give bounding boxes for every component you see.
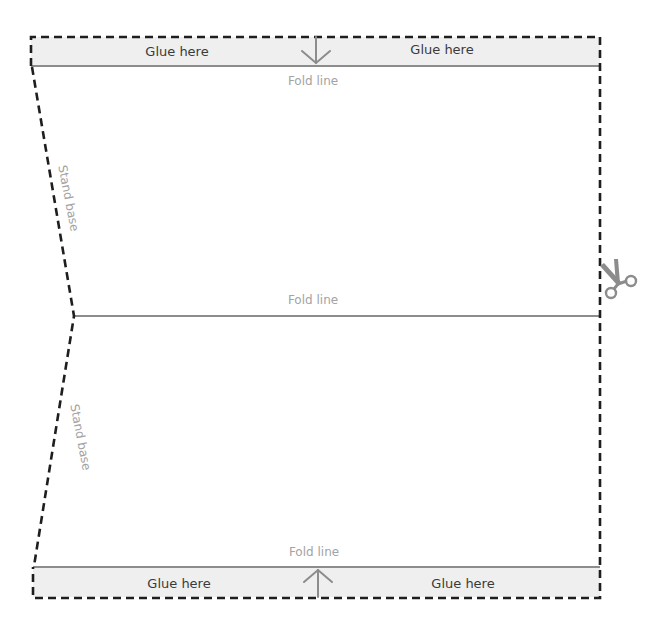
bottom-glue-left-label: Glue here bbox=[147, 577, 210, 590]
scissors-icon bbox=[600, 259, 636, 298]
bottom-fold-label: Fold line bbox=[289, 546, 339, 558]
middle-fold-label: Fold line bbox=[288, 294, 338, 306]
bottom-glue-right-label: Glue here bbox=[431, 577, 494, 590]
top-glue-right-label: Glue here bbox=[410, 43, 473, 56]
top-glue-left-label: Glue here bbox=[145, 45, 208, 58]
top-fold-label: Fold line bbox=[288, 75, 338, 87]
stand-template-diagram bbox=[0, 0, 669, 632]
cut-line-outline bbox=[31, 37, 600, 598]
